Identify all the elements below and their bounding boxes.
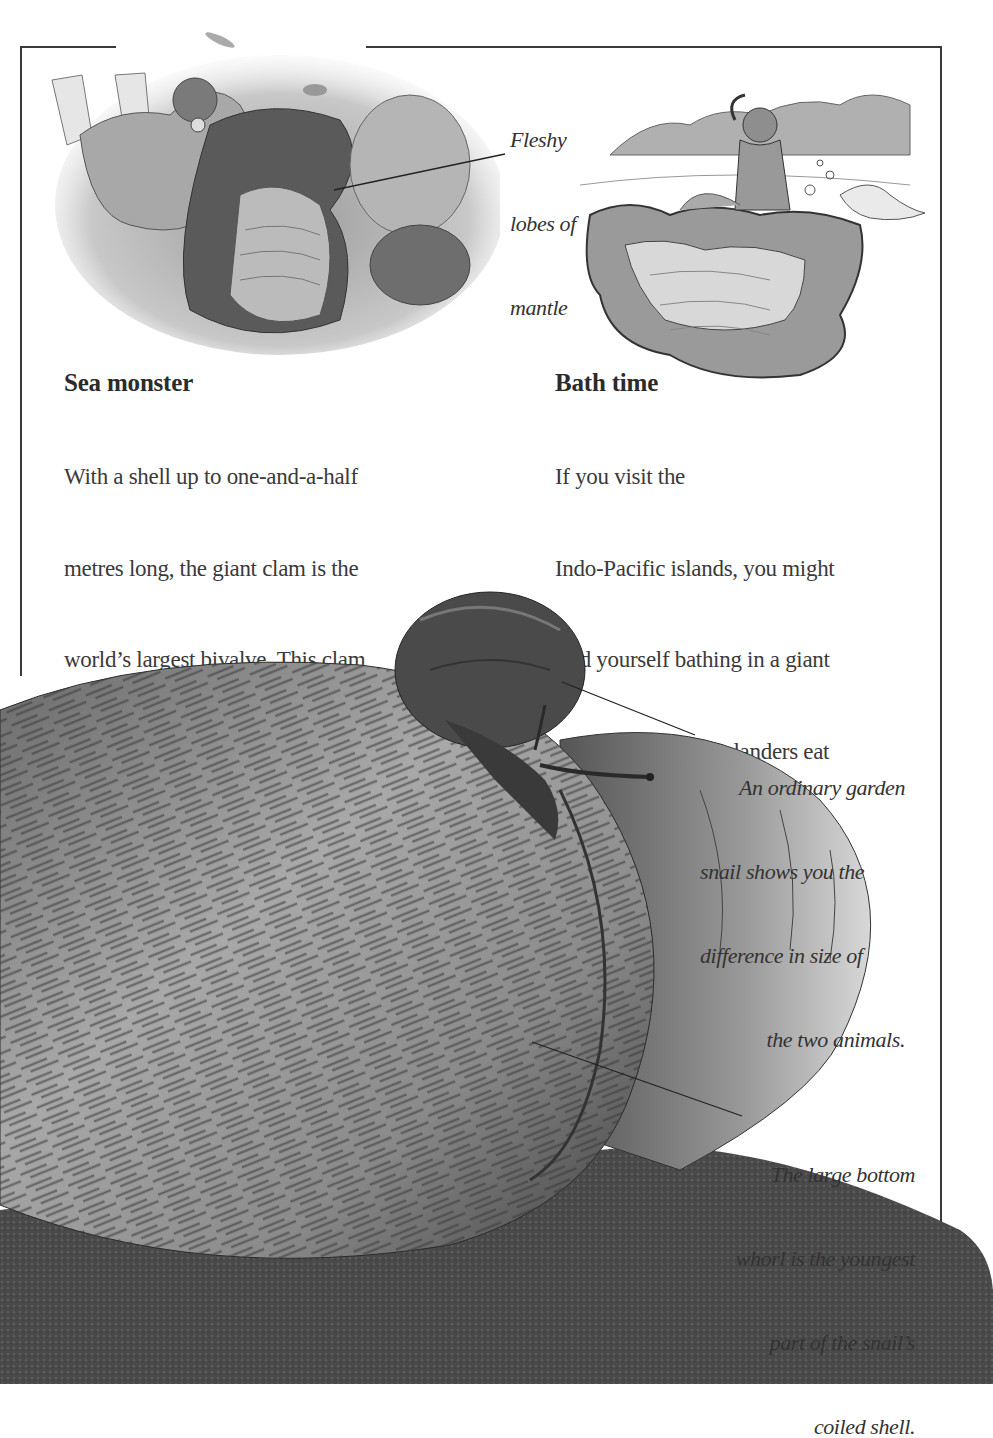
mantle-leader-line: [330, 150, 510, 195]
garden-snail-leader-line: [560, 680, 700, 740]
bottom-whorl-caption: The large bottom whorl is the youngest p…: [705, 1105, 915, 1438]
bath-time-heading: Bath time: [555, 369, 658, 397]
mantle-caption: Fleshy lobes of mantle: [510, 70, 576, 350]
person-bathing-in-clam-shell-illustration: [570, 75, 930, 380]
frame-left: [20, 46, 22, 676]
sea-monster-heading: Sea monster: [64, 369, 193, 397]
garden-snail-caption: An ordinary garden snail shows you the d…: [700, 718, 905, 1082]
